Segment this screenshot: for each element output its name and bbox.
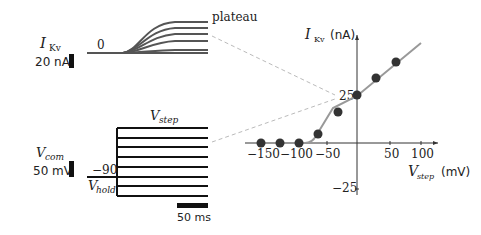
- iv-chart: −150 −100 −50 50 100 25 −25 I Kv (nA) V …: [245, 26, 470, 195]
- time-scale-bar: [177, 203, 208, 208]
- x-axis-unit: (mV): [441, 165, 470, 179]
- tick-m50: −50: [315, 147, 340, 161]
- current-traces-panel: I Kv 20 nA 0 plateau: [35, 10, 258, 69]
- current-traces: [123, 22, 208, 53]
- zero-label: 0: [97, 38, 105, 52]
- y-axis-unit: (nA): [330, 28, 355, 42]
- tick-50: 50: [384, 147, 399, 161]
- time-scale-label: 50 ms: [177, 211, 211, 224]
- figure: I Kv 20 nA 0 plateau V step: [0, 0, 481, 235]
- tick-100: 100: [411, 147, 434, 161]
- vcom-label-sub: com: [45, 152, 64, 162]
- tick-m25: −25: [332, 181, 357, 195]
- plateau-label: plateau: [212, 10, 258, 24]
- current-scale-bar: [69, 54, 74, 68]
- voltage-scale-bar: [69, 161, 74, 177]
- current-ylabel: I: [39, 34, 47, 52]
- y-axis-label-sub: Kv: [314, 35, 325, 44]
- hold-label-sub: hold: [96, 185, 116, 195]
- current-scale-label: 20 nA: [35, 55, 71, 69]
- voltage-scale-label: 50 mV: [33, 164, 73, 178]
- tick-m100: −100: [280, 147, 313, 161]
- hold-value-label: −90: [92, 163, 117, 177]
- voltage-protocol-panel: V step V com 50 mV −90 V hold 50 ms: [33, 108, 211, 224]
- data-points: [257, 58, 401, 148]
- x-axis-label-sub: step: [417, 172, 434, 181]
- tick-m150: −150: [247, 147, 280, 161]
- connector-lines: [212, 36, 335, 142]
- current-ylabel-sub: Kv: [49, 43, 62, 53]
- step-label-sub: step: [159, 115, 179, 125]
- y-axis-label: I: [304, 26, 311, 42]
